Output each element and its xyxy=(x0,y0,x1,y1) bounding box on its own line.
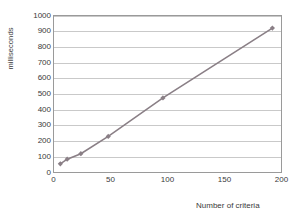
chart-container: milliseconds 010020030040050060070080090… xyxy=(0,0,298,220)
series-line xyxy=(60,28,272,164)
gridlines xyxy=(54,17,282,158)
plot-area xyxy=(0,0,298,220)
x-axis-title: Number of criteria xyxy=(196,201,260,210)
